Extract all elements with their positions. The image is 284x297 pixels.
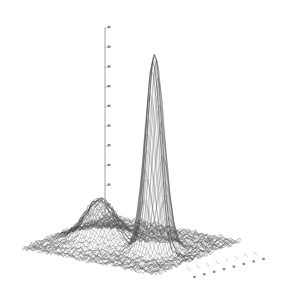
z-tick-label-mark xyxy=(107,203,110,205)
surface-plot-figure xyxy=(0,0,284,297)
z-tick-label-mark xyxy=(107,46,110,48)
z-tick-label-mark xyxy=(107,223,110,225)
plot-canvas xyxy=(0,0,284,297)
z-tick-label-mark xyxy=(107,124,110,126)
z-tick-label-mark xyxy=(107,144,110,146)
base-tick-label-mark xyxy=(223,268,226,270)
z-tick-label-mark xyxy=(107,184,110,186)
base-tick-label-mark xyxy=(203,273,206,275)
base-tick-label-mark xyxy=(193,276,196,278)
base-tick-label-mark xyxy=(262,258,265,260)
z-tick-label-mark xyxy=(107,105,110,107)
z-tick-label-mark xyxy=(107,26,110,28)
z-tick-label-mark xyxy=(107,65,110,67)
z-tick-label-mark xyxy=(107,85,110,87)
base-tick-label-mark xyxy=(243,263,246,265)
z-tick-label-mark xyxy=(107,164,110,166)
base-tick-label-mark xyxy=(252,260,255,262)
base-tick-label-mark xyxy=(213,271,216,273)
base-tick-label-mark xyxy=(233,266,236,268)
